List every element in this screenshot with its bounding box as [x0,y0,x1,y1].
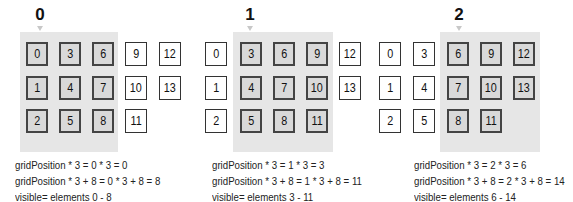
grid-cell: 12 [513,42,535,66]
grid-cell: 9 [125,42,147,66]
grid-cell: 13 [513,76,535,100]
caption-line: visible= elements 0 - 8 [15,189,160,202]
caption: gridPosition * 3 = 1 * 3 = 3 gridPositio… [212,157,362,202]
grid-cell: 11 [125,109,147,133]
grid-cell: 12 [339,42,361,66]
caption-line: gridPosition * 3 + 8 = 0 * 3 + 8 = 8 [15,173,160,189]
position-label: 0 [30,6,50,23]
position-label: 1 [240,6,260,23]
grid-cell: 13 [339,76,361,100]
grid-cell: 7 [273,76,295,100]
caption-line: gridPosition * 3 = 1 * 3 = 3 [212,157,362,173]
caption-line: gridPosition * 3 + 8 = 2 * 3 + 8 = 14 [414,173,565,189]
grid-cell: 5 [240,109,262,133]
grid-cell: 11 [306,109,328,133]
grid-cell: 2 [205,109,227,133]
grid-cell: 6 [447,42,469,66]
grid-cell: 11 [480,109,502,133]
grid-cell: 10 [480,76,502,100]
grid-cell: 4 [59,76,81,100]
grid-cell: 7 [447,76,469,100]
grid-cell: 5 [59,109,81,133]
grid-cell: 0 [205,42,227,66]
grid-cell: 4 [240,76,262,100]
grid-cell: 0 [379,42,401,66]
caption-line: gridPosition * 3 = 0 * 3 = 0 [15,157,160,173]
grid-cell: 6 [273,42,295,66]
grid-cell: 7 [92,76,114,100]
grid-cell: 1 [26,76,48,100]
pointer-arrow-icon [247,26,253,31]
grid-cell: 2 [26,109,48,133]
grid-cell: 9 [480,42,502,66]
grid-cell: 2 [379,109,401,133]
grid-cell: 10 [125,76,147,100]
caption-line: gridPosition * 3 = 2 * 3 = 6 [414,157,565,173]
grid-cell: 8 [447,109,469,133]
grid-cell: 3 [413,42,435,66]
position-label: 2 [449,6,469,23]
caption: gridPosition * 3 = 0 * 3 = 0 gridPositio… [15,157,160,202]
caption-line: visible= elements 6 - 14 [414,189,565,202]
grid-cell: 4 [413,76,435,100]
pointer-arrow-icon [37,26,43,31]
grid-cell: 12 [159,42,181,66]
caption: gridPosition * 3 = 2 * 3 = 6 gridPositio… [414,157,565,202]
grid-cell: 1 [379,76,401,100]
grid-cell: 8 [92,109,114,133]
grid-cell: 8 [273,109,295,133]
grid-cell: 10 [306,76,328,100]
grid-cell: 5 [413,109,435,133]
grid-cell: 3 [240,42,262,66]
grid-cell: 9 [306,42,328,66]
grid-scroll-diagram: 0 0 1 2 3 4 5 6 7 8 9 10 11 12 13 gridPo… [0,0,573,202]
grid-cell: 3 [59,42,81,66]
caption-line: visible= elements 3 - 11 [212,189,362,202]
grid-cell: 6 [92,42,114,66]
grid-cell: 1 [205,76,227,100]
pointer-arrow-icon [456,26,462,31]
grid-cell: 13 [159,76,181,100]
grid-cell: 0 [26,42,48,66]
caption-line: gridPosition * 3 + 8 = 1 * 3 + 8 = 11 [212,173,362,189]
